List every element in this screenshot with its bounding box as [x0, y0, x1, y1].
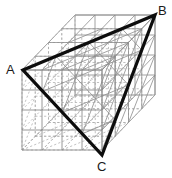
interior-diagonal [89, 103, 109, 123]
vertex-label-b: B [158, 4, 167, 17]
cube-lattice-svg [0, 0, 172, 178]
bottom-cell-diagonal [42, 136, 75, 150]
right-cell-diagonal [142, 55, 155, 89]
right-cell-diagonal [142, 75, 155, 109]
bottom-cell-diagonal [22, 136, 55, 150]
left-cell-diagonal [22, 116, 35, 150]
geometry-figure: A B C [0, 0, 172, 178]
left-cell-diagonal [22, 96, 35, 130]
right-cell-diagonal [115, 103, 128, 137]
bottom-cell-diagonal [35, 123, 68, 137]
vertex-label-c: C [97, 160, 106, 173]
right-cell-diagonal [142, 35, 155, 69]
vertex-label-a: A [6, 63, 15, 76]
